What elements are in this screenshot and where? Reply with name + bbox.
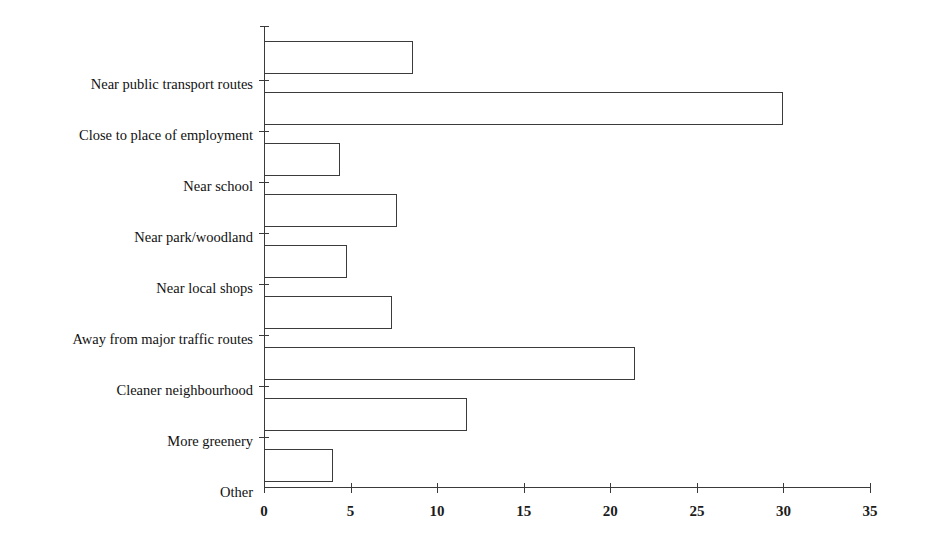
x-tick-label-10: 10 xyxy=(430,503,445,520)
category-axis-labels: Near public transport routes Close to pl… xyxy=(0,27,253,488)
x-tick-20 xyxy=(610,483,611,493)
x-tick-label-35: 35 xyxy=(863,503,878,520)
y-tick-7 xyxy=(259,386,269,387)
x-tick-15 xyxy=(524,483,525,493)
bar-near-public-transport-routes xyxy=(264,41,413,74)
x-tick-label-15: 15 xyxy=(516,503,531,520)
category-label-away-from-major-traffic-routes: Away from major traffic routes xyxy=(73,332,253,347)
x-tick-0 xyxy=(264,483,265,493)
plot-area: 0 5 10 15 20 25 30 35 xyxy=(264,27,870,488)
y-tick-6 xyxy=(259,335,269,336)
category-label-near-public-transport-routes: Near public transport routes xyxy=(91,77,253,92)
bar-near-park-woodland xyxy=(264,194,397,227)
bar-near-local-shops xyxy=(264,245,347,278)
bar-away-from-major-traffic-routes xyxy=(264,296,392,329)
x-tick-25 xyxy=(697,483,698,493)
bar-more-greenery xyxy=(264,398,467,431)
x-tick-label-0: 0 xyxy=(260,503,268,520)
x-tick-30 xyxy=(783,483,784,493)
bar-cleaner-neighbourhood xyxy=(264,347,635,380)
category-label-other: Other xyxy=(220,485,253,500)
y-tick-4 xyxy=(259,233,269,234)
y-tick-3 xyxy=(259,182,269,183)
x-tick-label-25: 25 xyxy=(689,503,704,520)
y-tick-2 xyxy=(259,131,269,132)
chart-screenshot: Near public transport routes Close to pl… xyxy=(0,0,926,544)
x-tick-label-30: 30 xyxy=(776,503,791,520)
y-tick-8 xyxy=(259,437,269,438)
category-label-near-school: Near school xyxy=(183,179,253,194)
x-axis-line xyxy=(264,487,870,488)
category-label-near-local-shops: Near local shops xyxy=(156,281,253,296)
x-tick-label-20: 20 xyxy=(603,503,618,520)
x-tick-10 xyxy=(437,483,438,493)
y-tick-1 xyxy=(259,80,269,81)
category-label-close-to-place-of-employment: Close to place of employment xyxy=(79,128,253,143)
y-axis-top-cap xyxy=(260,26,269,27)
bar-close-to-place-of-employment xyxy=(264,92,783,125)
x-tick-35 xyxy=(870,483,871,493)
category-label-more-greenery: More greenery xyxy=(167,434,253,449)
y-tick-5 xyxy=(259,284,269,285)
bar-near-school xyxy=(264,143,340,176)
x-tick-5 xyxy=(351,483,352,493)
category-label-near-park-woodland: Near park/woodland xyxy=(134,230,253,245)
category-label-cleaner-neighbourhood: Cleaner neighbourhood xyxy=(116,383,253,398)
bar-other xyxy=(264,449,333,482)
x-tick-label-5: 5 xyxy=(347,503,355,520)
